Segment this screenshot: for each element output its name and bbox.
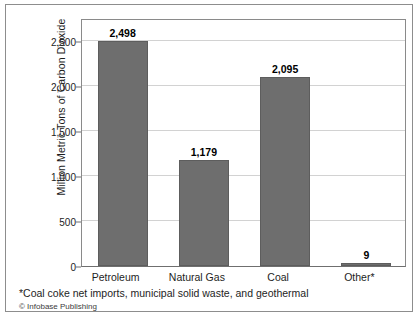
y-axis-ticks: 05001,0001,5002,0002,500 [32, 19, 76, 267]
bar-value-label: 2,498 [109, 27, 135, 39]
bar-value-label: 1,179 [191, 146, 217, 158]
bar-natural-gas [179, 160, 229, 266]
y-tick-label: 2,500 [36, 36, 76, 47]
footnote-text: *Coal coke net imports, municipal solid … [19, 287, 308, 299]
y-tick-label: 2,000 [36, 81, 76, 92]
y-tick-label: 1,500 [36, 126, 76, 137]
figure-frame: Million Metric Tons of Carbon Dioxide 05… [5, 4, 413, 312]
x-tick-label: Petroleum [92, 271, 140, 283]
bar-value-label: 9 [363, 249, 369, 261]
x-tick-label: Coal [267, 271, 289, 283]
bar-value-label: 2,095 [272, 63, 298, 75]
y-tick-label: 0 [36, 262, 76, 273]
x-tick-label: Natural Gas [169, 271, 225, 283]
credit-text: © Infobase Publishing [19, 302, 97, 311]
chart-figure: Million Metric Tons of Carbon Dioxide 05… [0, 0, 419, 317]
plot-area: 2,4981,1792,0959 [81, 19, 406, 267]
bar-petroleum [98, 41, 148, 266]
x-tick-label: Other* [344, 271, 374, 283]
y-tick-label: 500 [36, 216, 76, 227]
bar-coal [260, 77, 310, 266]
y-tick-label: 1,000 [36, 171, 76, 182]
bar-other [341, 263, 391, 266]
